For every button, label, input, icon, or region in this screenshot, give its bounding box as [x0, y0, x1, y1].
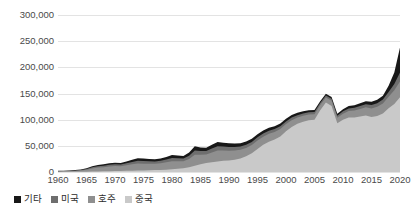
x-axis-tick-label: 1970	[104, 174, 125, 186]
x-axis-tick-label: 2020	[389, 174, 410, 186]
x-axis-tick-label: 2000	[275, 174, 296, 186]
y-axis-tick-label: 150,000	[0, 89, 54, 99]
gridline-0	[58, 172, 400, 173]
area-series-group	[58, 15, 400, 172]
legend-label: 중국	[135, 194, 153, 204]
legend-item-중국[interactable]: 중국	[125, 194, 153, 204]
legend-label: 호주	[98, 194, 116, 204]
x-axis-tick-label: 1995	[247, 174, 268, 186]
x-axis-tick-label: 2015	[361, 174, 382, 186]
x-axis: 1960196519701975198019851990199520002005…	[58, 174, 400, 188]
x-axis-tick-label: 1965	[76, 174, 97, 186]
x-axis-tick-label: 1975	[133, 174, 154, 186]
chart-legend: 기타미국호주중국	[14, 192, 153, 206]
legend-item-호주[interactable]: 호주	[88, 194, 116, 204]
legend-item-미국[interactable]: 미국	[51, 194, 79, 204]
x-axis-tick-label: 1980	[161, 174, 182, 186]
legend-swatch-icon	[14, 196, 21, 203]
stacked-area-chart: 050,000100,000150,000200,000250,000300,0…	[0, 0, 419, 208]
x-axis-tick-label: 1960	[47, 174, 68, 186]
x-axis-tick-label: 1990	[218, 174, 239, 186]
y-axis-tick-label: 300,000	[0, 10, 54, 20]
x-axis-tick-label: 2010	[332, 174, 353, 186]
x-axis-tick-label: 2005	[304, 174, 325, 186]
x-axis-tick-label: 1985	[190, 174, 211, 186]
y-axis-tick-label: 0	[0, 167, 54, 177]
y-axis: 050,000100,000150,000200,000250,000300,0…	[0, 0, 54, 180]
legend-swatch-icon	[88, 196, 95, 203]
y-axis-tick-label: 200,000	[0, 62, 54, 72]
legend-swatch-icon	[51, 196, 58, 203]
y-axis-tick-label: 250,000	[0, 36, 54, 46]
legend-item-기타[interactable]: 기타	[14, 194, 42, 204]
legend-label: 기타	[24, 194, 42, 204]
legend-label: 미국	[61, 194, 79, 204]
plot-area	[58, 15, 400, 172]
y-axis-tick-label: 100,000	[0, 115, 54, 125]
legend-swatch-icon	[125, 196, 132, 203]
y-axis-tick-label: 50,000	[0, 141, 54, 151]
